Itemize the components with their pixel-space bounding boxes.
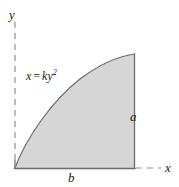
curve-equation-label: x=ky2 xyxy=(26,69,57,82)
dimension-label-a: a xyxy=(130,110,137,123)
figure-container: y x a b x=ky2 xyxy=(0,0,179,187)
x-axis-label: x xyxy=(165,161,171,174)
y-axis-label: y xyxy=(9,8,15,21)
equation-exponent: 2 xyxy=(53,68,57,77)
equation-operator: = xyxy=(31,69,42,83)
dimension-label-b: b xyxy=(68,171,75,184)
parabolic-spandrel-diagram xyxy=(0,0,179,187)
